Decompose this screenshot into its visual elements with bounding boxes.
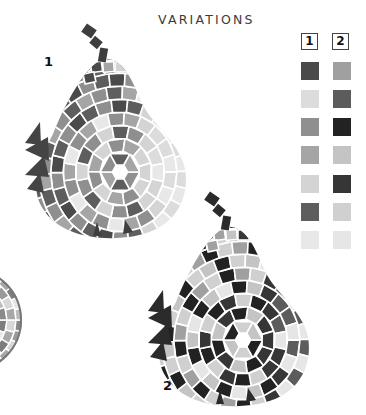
pear-mosaic-2 xyxy=(0,0,366,415)
pear-label-1: 1 xyxy=(44,54,53,69)
pear-label-2: 2 xyxy=(163,378,172,393)
